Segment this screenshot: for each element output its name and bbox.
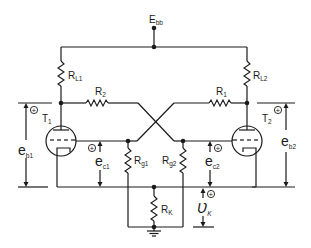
resistor-rg1: Rg1 xyxy=(125,141,149,227)
triode-t1: T1 xyxy=(42,103,76,187)
t1-label: T1 xyxy=(42,113,52,125)
ec1-label: ec1 xyxy=(95,153,110,170)
rk-label: RK xyxy=(161,204,173,216)
voltage-vk: + ƲK xyxy=(193,188,215,227)
resistor-r2: R2 xyxy=(61,86,183,141)
svg-text:+: + xyxy=(216,144,221,153)
resistor-rl2: RL2 xyxy=(244,47,268,103)
supply-label: Ebb xyxy=(149,14,163,26)
triode-t2: T2 xyxy=(232,103,272,187)
ground-icon xyxy=(147,227,161,236)
t2-label: T2 xyxy=(262,113,272,125)
svg-text:+: + xyxy=(276,106,281,115)
rg2-label: Rg2 xyxy=(162,155,177,168)
r1-label: R1 xyxy=(216,86,227,98)
resistor-rl1: RL1 xyxy=(58,47,83,103)
rl1-label: RL1 xyxy=(68,70,83,82)
eb2-label: eb2 xyxy=(281,133,296,150)
voltage-ec2: + ec2 xyxy=(205,141,222,187)
svg-text:+: + xyxy=(32,106,37,115)
rg1-label: Rg1 xyxy=(134,155,149,168)
svg-text:+: + xyxy=(209,190,214,199)
rl2-label: RL2 xyxy=(253,70,268,82)
resistor-rk: RK xyxy=(151,187,173,227)
eb1-label: eb1 xyxy=(18,142,33,159)
r2-label: R2 xyxy=(95,86,106,98)
ec2-label: ec2 xyxy=(205,153,220,170)
supply-terminal: Ebb xyxy=(149,14,163,49)
resistor-r1: R1 xyxy=(128,86,247,141)
circuit-diagram: Ebb RL1 RL2 R2 R1 xyxy=(0,0,311,248)
voltage-ec1: + ec1 xyxy=(88,141,110,187)
vk-label: ƲK xyxy=(197,200,212,217)
svg-text:+: + xyxy=(90,144,95,153)
